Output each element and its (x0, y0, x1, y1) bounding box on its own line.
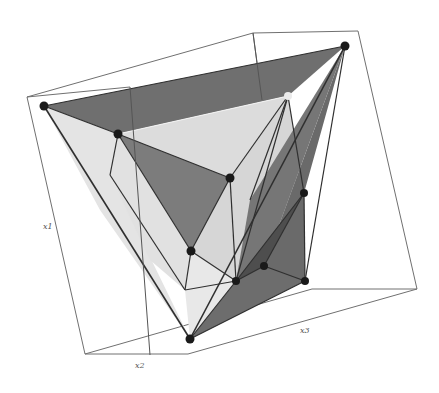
axis-label-x3: x3 (300, 326, 310, 335)
polytope-faces (44, 46, 345, 339)
axis-label-x2: x2 (135, 361, 145, 370)
vertex-v8 (232, 277, 240, 285)
vertex-v5 (226, 174, 235, 183)
vertex-v4 (284, 92, 292, 100)
polytope-diagram (0, 0, 439, 393)
vertex-v7 (300, 189, 308, 197)
vertex-v10 (301, 277, 309, 285)
vertex-v1 (40, 102, 49, 111)
vertex-v6 (187, 247, 196, 256)
vertex-v2 (341, 42, 350, 51)
axis-label-x1: x1 (43, 222, 53, 231)
vertex-v9 (260, 262, 268, 270)
vertex-v11 (186, 335, 195, 344)
vertex-v3 (114, 130, 123, 139)
